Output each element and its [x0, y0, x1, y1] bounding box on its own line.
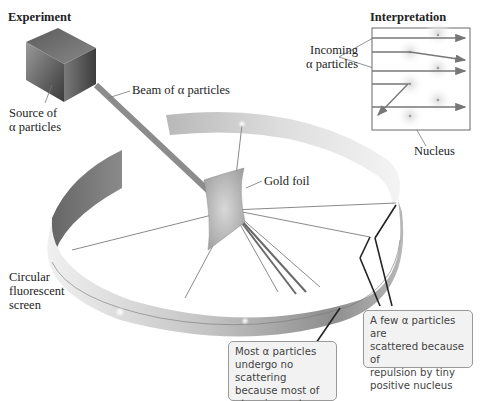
experiment-title: Experiment [8, 10, 71, 24]
callout-no-scattering: Most α particles undergo no scattering b… [228, 341, 337, 401]
gold-foil-label: Gold foil [264, 174, 309, 188]
beam-label: Beam of α particles [132, 83, 230, 97]
interpretation-panel [372, 19, 470, 130]
nucleus-label: Nucleus [414, 144, 455, 158]
incoming-particles-label: Incoming α particles [306, 43, 358, 71]
source-label: Source of α particles [9, 106, 61, 134]
alpha-source-box [26, 28, 96, 102]
callout-few-scattered: A few α particles are scattered because … [363, 310, 473, 368]
rutherford-diagram: Experiment Interpretation Source of α pa… [0, 0, 481, 401]
gold-foil [204, 168, 245, 250]
interpretation-title: Interpretation [370, 10, 446, 24]
fluorescent-screen-back [166, 112, 400, 205]
fluorescent-screen-left [52, 150, 122, 262]
screen-label: Circular fluorescent screen [9, 270, 65, 312]
